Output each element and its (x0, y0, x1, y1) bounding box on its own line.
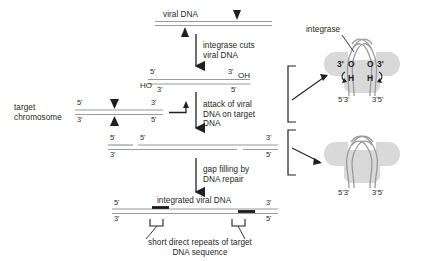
top-complex-right-hydrogen: H (367, 74, 373, 82)
row5-top-right-prime: 3' (266, 199, 272, 207)
row3-top-right-prime: 3' (151, 99, 157, 107)
top-complex-left-oxygen: O (348, 60, 355, 68)
integrase-complex-top (324, 39, 400, 96)
row5-top-left-prime: 5' (114, 199, 120, 207)
top-complex-foot-left: 5'3' (338, 96, 349, 104)
row4-top-right-prime: 3' (266, 134, 272, 142)
row2-bottom-left-prime: 3' (157, 86, 163, 94)
repeat-bracket-left (146, 219, 163, 239)
target-chromosome-duplex (75, 110, 163, 115)
row2-top-left-prime: 5' (150, 68, 156, 76)
top-complex-left-3prime: 3' (337, 60, 344, 68)
step1-annotation: integrase cuts viral DNA (203, 41, 255, 60)
top-complex-right-oxygen: O (367, 60, 374, 68)
diagram-canvas: viral DNA integrase cuts viral DNA 5' 3'… (0, 0, 424, 261)
diagram-vector-layer (0, 0, 424, 261)
bracket-to-top-complex (288, 66, 328, 122)
integrase-complex-bottom (324, 136, 400, 188)
viral-cut-arrowhead-left (181, 27, 189, 37)
step3-annotation: gap filling by DNA repair (203, 165, 249, 184)
row2-top-right-prime: 3' (228, 68, 234, 76)
cut-viral-dna-duplex (148, 80, 250, 85)
row5-bottom-left-prime: 3' (114, 215, 120, 223)
viral-cut-arrowhead-right (233, 10, 241, 20)
target-chromosome-label: target chromosome (14, 103, 62, 122)
bottom-complex-foot-right: 3'5' (372, 189, 383, 197)
integrase-label: integrase (306, 25, 340, 35)
row4-top-left-prime: 5' (110, 134, 116, 142)
row3-top-left-prime: 5' (77, 99, 83, 107)
caption-line-1: short direct repeats of target (98, 238, 302, 248)
integration-intermediate-duplex (108, 145, 278, 150)
row3-bottom-left-prime: 3' (77, 116, 83, 124)
row3-bottom-right-prime: 5' (151, 116, 157, 124)
step2-annotation: attack of viral DNA on target DNA (203, 100, 255, 129)
top-complex-foot-right: 3'5' (372, 96, 383, 104)
target-cut-arrowhead-top (110, 99, 119, 109)
row5-bottom-right-prime: 5' (266, 215, 272, 223)
top-complex-left-hydrogen: H (348, 74, 354, 82)
target-to-attack-connector (169, 101, 189, 113)
target-cut-arrowhead-bottom (110, 116, 119, 126)
top-complex-right-3prime: 3' (377, 60, 384, 68)
row4-bottom-right-prime: 5' (266, 151, 272, 159)
row2-top-right-oh: OH (238, 72, 250, 80)
viral-dna-duplex (155, 22, 272, 26)
bracket-to-bottom-complex (288, 130, 322, 175)
row2-bottom-left-ho: HO (140, 82, 152, 90)
integrated-viral-dna-label: integrated viral DNA (157, 196, 231, 206)
bottom-complex-foot-left: 5'3' (338, 189, 349, 197)
viral-dna-label: viral DNA (163, 10, 198, 20)
repeat-bracket-right (232, 219, 245, 239)
row4-top-mid-prime: 5' (140, 134, 146, 142)
row4-bottom-left-prime: 3' (110, 151, 116, 159)
caption-line-2: DNA sequence (98, 248, 302, 258)
row2-bottom-right-prime: 5' (231, 86, 237, 94)
